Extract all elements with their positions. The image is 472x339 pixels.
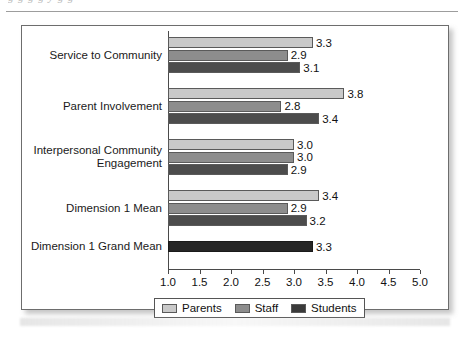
x-tick xyxy=(294,270,295,274)
category-label: Dimension 1 Mean xyxy=(2,202,162,215)
x-tick-label: 3.5 xyxy=(318,276,334,288)
bar-value-label: 2.9 xyxy=(288,165,307,176)
category-label: Parent Involvement xyxy=(2,100,162,113)
legend-item[interactable]: Students xyxy=(291,302,356,314)
x-tick xyxy=(357,270,358,274)
bar-value-label: 2.9 xyxy=(288,50,307,61)
page-cut-off-text: g g g g y g g xyxy=(8,0,448,5)
bar-value-label: 2.8 xyxy=(281,101,300,112)
bar-parents[interactable] xyxy=(168,139,294,150)
bar-value-label: 3.4 xyxy=(319,191,338,202)
legend-swatch-icon xyxy=(162,304,177,313)
bar-value-label: 3.0 xyxy=(294,152,313,163)
chart-legend: ParentsStaffStudents xyxy=(154,298,365,318)
bar-value-label: 3.4 xyxy=(319,114,338,125)
bar-value-label: 3.8 xyxy=(344,89,363,100)
bar-value-label: 3.3 xyxy=(313,38,332,49)
x-tick xyxy=(231,270,232,274)
chart-frame: Service to Community3.32.93.1Parent Invo… xyxy=(21,25,449,310)
x-tick-label: 4.5 xyxy=(381,276,397,288)
x-tick xyxy=(389,270,390,274)
x-tick-label: 4.0 xyxy=(349,276,365,288)
legend-swatch-icon xyxy=(291,304,306,313)
bar-students[interactable] xyxy=(168,62,300,73)
bar-staff[interactable] xyxy=(168,203,288,214)
legend-label: Parents xyxy=(182,302,222,314)
x-tick xyxy=(200,270,201,274)
bar-students[interactable] xyxy=(168,113,319,124)
category-label: Service to Community xyxy=(2,49,162,62)
category-label: Interpersonal Community Engagement xyxy=(2,144,162,170)
bar-students[interactable] xyxy=(168,164,288,175)
x-tick-label: 2.5 xyxy=(255,276,271,288)
plot-area: Service to Community3.32.93.1Parent Invo… xyxy=(168,31,420,269)
bar-value-label: 3.1 xyxy=(300,63,319,74)
bar-value-label: 3.3 xyxy=(313,242,332,253)
x-tick-label: 2.0 xyxy=(223,276,239,288)
bar-parents[interactable] xyxy=(168,88,344,99)
bar-staff[interactable] xyxy=(168,101,281,112)
x-tick-label: 1.0 xyxy=(160,276,176,288)
category-label: Dimension 1 Grand Mean xyxy=(2,240,162,253)
bar-value-label: 3.0 xyxy=(294,140,313,151)
bar-staff[interactable] xyxy=(168,152,294,163)
bar-students[interactable] xyxy=(168,215,307,226)
x-tick-label: 3.0 xyxy=(286,276,302,288)
legend-label: Students xyxy=(311,302,356,314)
legend-swatch-icon xyxy=(235,304,250,313)
bar-parents[interactable] xyxy=(168,37,313,48)
x-tick xyxy=(263,270,264,274)
legend-item[interactable]: Parents xyxy=(162,302,222,314)
x-tick xyxy=(420,270,421,274)
bar-parents[interactable] xyxy=(168,190,319,201)
page-horizontal-rule xyxy=(6,11,458,12)
x-tick-label: 1.5 xyxy=(192,276,208,288)
bar-staff[interactable] xyxy=(168,50,288,61)
bar-grand-mean[interactable] xyxy=(168,241,313,252)
bar-value-label: 2.9 xyxy=(288,203,307,214)
x-axis: 1.01.52.02.53.03.54.04.55.0 xyxy=(168,269,420,270)
bar-value-label: 3.2 xyxy=(307,216,326,227)
x-tick-label: 5.0 xyxy=(412,276,428,288)
page-scan-smudge xyxy=(20,318,450,326)
legend-item[interactable]: Staff xyxy=(235,302,278,314)
legend-label: Staff xyxy=(255,302,278,314)
x-tick xyxy=(168,270,169,274)
x-tick xyxy=(326,270,327,274)
